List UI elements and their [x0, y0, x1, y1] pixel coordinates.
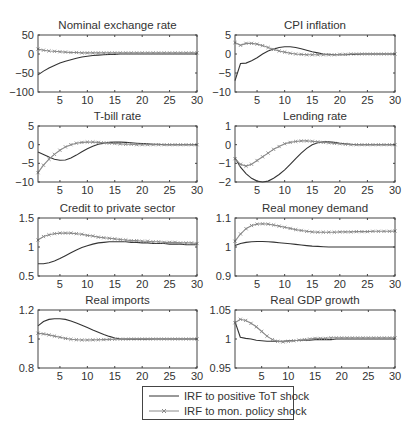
plot-title: Nominal exchange rate [58, 19, 176, 31]
x-tick-label: 10 [279, 94, 291, 106]
series-policy-shock [38, 49, 197, 53]
plot-title: Real money demand [262, 202, 368, 214]
y-tick-label: 0.9 [216, 270, 231, 282]
legend-label-policy: IRF to mon. policy shock [184, 405, 306, 417]
x-tick-label: 5 [254, 278, 260, 290]
series-policy-shock [38, 142, 197, 173]
x-tick-label: 5 [254, 94, 260, 106]
x-tick-label: 20 [334, 184, 346, 196]
y-tick-label: 1 [225, 241, 231, 253]
chart-legend: IRF to positive ToT shock IRF to mon. po… [142, 386, 294, 420]
series-tot-shock [38, 242, 197, 264]
x-tick-label: 25 [163, 184, 175, 196]
plot-real-gdp-growth: Real GDP growth510152025301.0510.95 [210, 294, 402, 382]
x-tick-label: 5 [57, 278, 63, 290]
y-tick-label: 0.95 [210, 362, 231, 374]
solid-line-icon [149, 392, 179, 400]
y-tick-label: 1.05 [210, 304, 231, 316]
x-tick-label: 30 [191, 370, 203, 382]
y-tick-label: −50 [15, 67, 34, 79]
axes-box [235, 35, 395, 92]
x-tick-label: 25 [163, 370, 175, 382]
x-tick-label: 10 [282, 370, 294, 382]
plot-real-imports: Real imports510152025301.210.8 [19, 294, 203, 382]
y-tick-label: 1.2 [19, 304, 34, 316]
x-tick-label: 5 [254, 184, 260, 196]
x-tick-label: 20 [136, 370, 148, 382]
x-tick-label: 15 [109, 278, 121, 290]
plot-nominal-exchange-rate: Nominal exchange rate51015202530500−50−1… [9, 19, 203, 106]
x-tick-label: 25 [361, 184, 373, 196]
y-tick-label: 50 [22, 29, 34, 41]
y-tick-label: 5 [28, 120, 34, 132]
x-tick-label: 10 [81, 94, 93, 106]
x-tick-label: 20 [334, 94, 346, 106]
x-tick-label: 30 [191, 184, 203, 196]
x-tick-label: 20 [136, 94, 148, 106]
x-tick-label: 15 [109, 94, 121, 106]
x-tick-label: 10 [81, 370, 93, 382]
x-tick-label: 5 [57, 184, 63, 196]
x-tick-label: 15 [309, 370, 321, 382]
plot-real-money-demand: Real money demand510152025301.110.9 [216, 202, 401, 290]
y-tick-label: 1.5 [19, 212, 34, 224]
x-tick-label: 15 [306, 278, 318, 290]
x-tick-label: 20 [334, 278, 346, 290]
plot-title: Real GDP growth [270, 294, 359, 306]
series-policy-shock [235, 141, 395, 166]
x-tick-label: 25 [163, 278, 175, 290]
y-tick-label: 0.5 [19, 270, 34, 282]
axes-box [38, 218, 197, 276]
x-tick-label: 15 [109, 370, 121, 382]
y-tick-label: 0 [28, 48, 34, 60]
x-tick-label: 25 [362, 370, 374, 382]
series-tot-shock [235, 142, 395, 182]
x-markers [36, 231, 198, 245]
legend-label-tot: IRF to positive ToT shock [184, 390, 309, 402]
x-tick-label: 30 [389, 94, 401, 106]
x-tick-label: 30 [389, 370, 401, 382]
y-tick-label: 1 [28, 333, 34, 345]
x-tick-label: 25 [361, 94, 373, 106]
x-tick-label: 15 [306, 184, 318, 196]
series-policy-shock [235, 224, 395, 241]
x-tick-label: 20 [336, 370, 348, 382]
legend-entry-policy: IRF to mon. policy shock [149, 403, 306, 418]
x-tick-label: 10 [279, 184, 291, 196]
x-tick-label: 30 [191, 94, 203, 106]
x-tick-label: 5 [259, 370, 265, 382]
series-tot-shock [235, 242, 395, 248]
plot-title: Lending rate [283, 110, 347, 122]
series-tot-shock [38, 319, 197, 339]
x-tick-label: 20 [136, 184, 148, 196]
series-policy-shock [235, 43, 395, 55]
y-tick-label: 1 [28, 241, 34, 253]
x-tick-label: 20 [136, 278, 148, 290]
y-tick-label: 1 [225, 333, 231, 345]
x-tick-label: 15 [109, 184, 121, 196]
x-markers [36, 332, 198, 342]
plot-title: Real imports [85, 294, 150, 306]
x-tick-label: 30 [389, 184, 401, 196]
x-marker-line-icon [149, 407, 179, 415]
y-tick-label: −5 [21, 157, 34, 169]
y-tick-label: −2 [218, 176, 231, 188]
y-tick-label: 0 [28, 139, 34, 151]
x-tick-label: 10 [81, 278, 93, 290]
x-tick-label: 10 [279, 278, 291, 290]
plot-title: Credit to private sector [60, 202, 176, 214]
y-tick-label: 0 [225, 48, 231, 60]
series-tot-shock [235, 47, 395, 81]
x-tick-label: 25 [163, 94, 175, 106]
y-tick-label: 1 [225, 120, 231, 132]
y-tick-label: −1 [218, 157, 231, 169]
irf-figure: Nominal exchange rate51015202530500−50−1… [0, 0, 415, 428]
x-tick-label: 5 [57, 94, 63, 106]
y-tick-label: −10 [212, 86, 231, 98]
plot-credit-to-private-sector: Credit to private sector510152025301.510… [19, 202, 203, 290]
y-tick-label: −100 [9, 86, 34, 98]
plot-title: CPI inflation [284, 19, 346, 31]
plot-lending-rate: Lending rate5101520253010−1−2 [218, 110, 401, 196]
x-tick-label: 5 [57, 370, 63, 382]
x-tick-label: 10 [81, 184, 93, 196]
